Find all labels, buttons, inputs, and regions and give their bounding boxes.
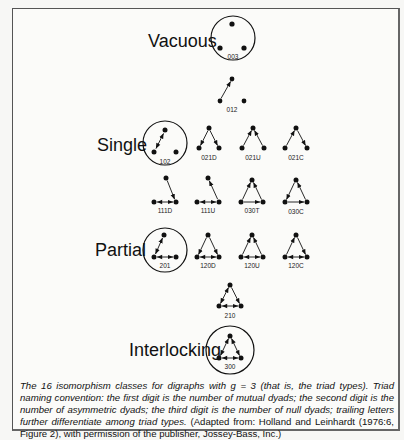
- triad-census-diagram: 003 012 102 021D: [0, 0, 404, 440]
- triad-120D: 120D: [195, 233, 222, 270]
- triad-code: 210: [225, 312, 236, 319]
- triad-code: 120D: [200, 262, 216, 269]
- triad-111U: 111U: [195, 176, 222, 215]
- triad-code: 300: [225, 363, 236, 370]
- triad-102: 102: [143, 121, 187, 165]
- triad-021D: 021D: [197, 126, 222, 162]
- group-label-partial: Partial: [95, 240, 146, 261]
- group-label-interlocking: Interlocking: [129, 340, 221, 361]
- group-label-vacuous: Vacuous: [148, 31, 217, 52]
- triad-code: 021D: [201, 154, 217, 161]
- triad-code: 012: [227, 106, 238, 113]
- triad-code: 120C: [288, 262, 304, 269]
- triad-210: 210: [217, 283, 244, 320]
- triad-code: 201: [160, 262, 171, 269]
- triad-code: 111D: [158, 207, 173, 214]
- triad-code: 102: [160, 158, 171, 165]
- triad-code: 030T: [245, 207, 260, 214]
- triad-code: 030C: [288, 208, 304, 215]
- triad-201: 201: [143, 228, 187, 272]
- triad-030C: 030C: [283, 178, 310, 216]
- triad-021C: 021C: [283, 126, 310, 162]
- triad-code: 003: [228, 53, 239, 60]
- triad-code: 120U: [244, 262, 260, 269]
- triad-111D: 111D: [152, 176, 179, 215]
- triad-code: 111U: [201, 207, 216, 214]
- triad-030T: 030T: [239, 178, 266, 215]
- triad-003: 003: [211, 16, 255, 60]
- triad-code: 021C: [288, 154, 304, 161]
- triad-120U: 120U: [239, 233, 266, 270]
- group-label-single: Single: [97, 135, 147, 156]
- triad-021U: 021U: [240, 126, 267, 162]
- figure-caption: The 16 isomorphism classes for digraphs …: [20, 380, 394, 440]
- triad-code: 021U: [245, 154, 261, 161]
- triad-120C: 120C: [283, 233, 310, 270]
- triad-012: 012: [218, 77, 247, 113]
